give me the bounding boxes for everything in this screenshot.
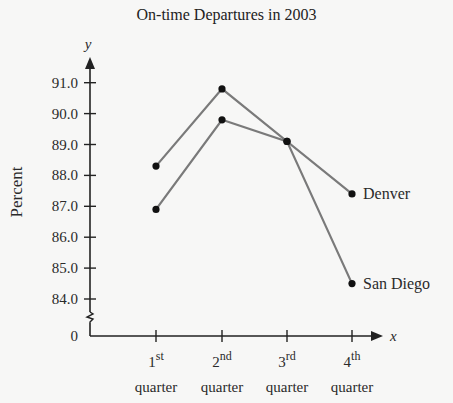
series-lines bbox=[152, 85, 355, 287]
x-tick-label: 3rd bbox=[278, 349, 296, 370]
data-point bbox=[218, 116, 225, 123]
x-tick-sublabel: quarter bbox=[266, 379, 308, 395]
series-line-san-diego bbox=[156, 89, 352, 284]
x-ticks: 1stquarter2ndquarter3rdquarter4thquarter bbox=[135, 330, 373, 395]
series-labels: DenverSan Diego bbox=[363, 185, 430, 293]
x-axis-arrow-icon bbox=[371, 331, 383, 341]
data-point bbox=[348, 280, 355, 287]
y-axis-variable: y bbox=[83, 36, 92, 52]
x-axis-variable: x bbox=[389, 328, 397, 344]
x-tick-label: 2nd bbox=[212, 349, 232, 370]
x-tick-label: 4th bbox=[344, 349, 361, 370]
x-tick-label: 1st bbox=[148, 349, 164, 370]
data-point bbox=[348, 190, 355, 197]
y-axis-arrow-icon bbox=[85, 57, 95, 69]
x-tick-sublabel: quarter bbox=[331, 379, 373, 395]
y-axis-label: Percent bbox=[7, 166, 26, 217]
y-tick-label: 90.0 bbox=[52, 106, 78, 122]
data-point bbox=[152, 163, 159, 170]
y-tick-label: 88.0 bbox=[52, 167, 78, 183]
y-tick-label: 85.0 bbox=[52, 260, 78, 276]
line-chart: yxPercent 084.085.086.087.088.089.090.09… bbox=[0, 0, 453, 403]
y-tick-label: 86.0 bbox=[52, 229, 78, 245]
data-point bbox=[283, 138, 290, 145]
x-tick-sublabel: quarter bbox=[201, 379, 243, 395]
y-tick-label: 87.0 bbox=[52, 198, 78, 214]
y-tick-label: 91.0 bbox=[52, 75, 78, 91]
y-tick-label: 0 bbox=[71, 328, 79, 344]
x-tick-sublabel: quarter bbox=[135, 379, 177, 395]
y-tick-label: 89.0 bbox=[52, 137, 78, 153]
data-point bbox=[152, 206, 159, 213]
data-point bbox=[218, 85, 225, 92]
y-tick-label: 84.0 bbox=[52, 291, 78, 307]
axis-break-icon bbox=[87, 312, 93, 323]
series-label: San Diego bbox=[363, 275, 430, 293]
series-label: Denver bbox=[363, 185, 411, 202]
